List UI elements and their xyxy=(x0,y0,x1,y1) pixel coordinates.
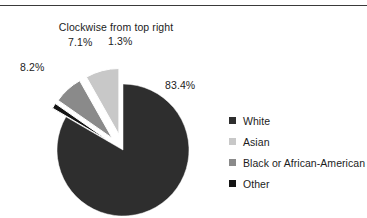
top-divider-rule xyxy=(0,5,367,6)
legend-item-label: White xyxy=(243,115,270,127)
legend-item[interactable]: Other xyxy=(229,173,367,194)
data-label-asian: 8.2% xyxy=(20,61,44,73)
data-label-other: 1.3% xyxy=(108,35,132,47)
chart-legend: WhiteAsianBlack or African-AmericanOther xyxy=(229,110,367,194)
legend-swatch-icon xyxy=(229,138,236,145)
data-label-black: 7.1% xyxy=(68,36,92,48)
legend-item[interactable]: Asian xyxy=(229,131,367,152)
legend-item-label: Black or African-American xyxy=(243,157,365,169)
data-label-white: 83.4% xyxy=(165,79,195,91)
legend-item-label: Asian xyxy=(243,136,270,148)
legend-swatch-icon xyxy=(229,117,236,124)
legend-item-label: Other xyxy=(243,178,270,190)
legend-swatch-icon xyxy=(229,159,236,166)
legend-item[interactable]: White xyxy=(229,110,367,131)
legend-item[interactable]: Black or African-American xyxy=(229,152,367,173)
legend-swatch-icon xyxy=(229,180,236,187)
pie-chart-figure: Clockwise from top right 83.4% 1.3% 7.1%… xyxy=(0,0,367,218)
